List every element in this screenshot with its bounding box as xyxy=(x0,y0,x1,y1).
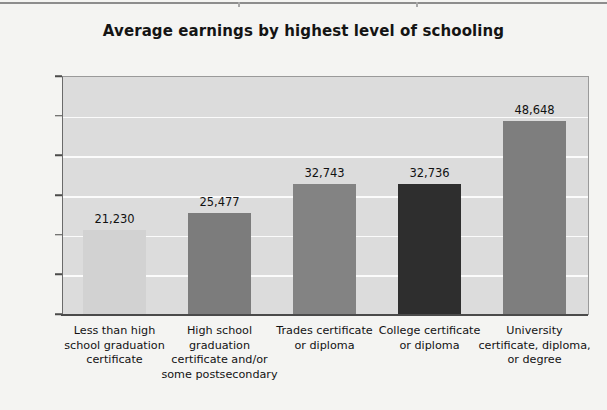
bar-value-label: 21,230 xyxy=(62,212,167,226)
x-axis-category-label: Less than highschool graduationcertifica… xyxy=(55,324,174,368)
x-axis-category-label: Trades certificateor diploma xyxy=(265,324,384,353)
y-axis-tick-mark xyxy=(55,155,62,157)
y-axis-tick-mark xyxy=(55,194,62,196)
x-axis-category-label-line: certificate and/or xyxy=(160,353,279,368)
x-axis-category-label: Universitycertificate, diploma,or degree xyxy=(475,324,594,368)
bar xyxy=(503,121,566,314)
x-axis-category-label-line: High school xyxy=(160,324,279,339)
x-axis-category-label-line: certificate xyxy=(55,353,174,368)
chart-figure: Average earnings by highest level of sch… xyxy=(0,6,607,410)
bar-value-label: 32,743 xyxy=(272,166,377,180)
x-axis-category-label-line: or diploma xyxy=(370,339,489,354)
bar-value-label: 48,648 xyxy=(482,103,587,117)
bar-value-label: 32,736 xyxy=(377,166,482,180)
chart-title: Average earnings by highest level of sch… xyxy=(0,22,607,40)
x-axis-baseline xyxy=(61,314,588,316)
bar xyxy=(188,213,251,314)
y-axis-tick-mark xyxy=(55,75,62,77)
y-axis-tick-mark xyxy=(55,234,62,236)
x-axis-category-label-line: graduation xyxy=(160,339,279,354)
x-axis-category-label-line: certificate, diploma, xyxy=(475,339,594,354)
y-axis-tick-mark xyxy=(55,274,62,276)
x-axis-category-label-line: some postsecondary xyxy=(160,368,279,383)
x-axis-category-label-line: University xyxy=(475,324,594,339)
bar-value-label: 25,477 xyxy=(167,195,272,209)
x-axis-category-label: High schoolgraduationcertificate and/ors… xyxy=(160,324,279,382)
page-top-rule xyxy=(0,2,607,4)
x-axis-category-label: College certificateor diploma xyxy=(370,324,489,353)
x-axis-category-label-line: or degree xyxy=(475,353,594,368)
x-axis-category-label-line: College certificate xyxy=(370,324,489,339)
x-axis-category-label-line: Less than high xyxy=(55,324,174,339)
x-axis-category-label-line: Trades certificate xyxy=(265,324,384,339)
y-axis-tick-mark xyxy=(55,313,62,315)
x-axis-category-label-line: school graduation xyxy=(55,339,174,354)
bar xyxy=(398,184,461,314)
x-axis-category-label-line: or diploma xyxy=(265,339,384,354)
y-axis-tick-mark xyxy=(55,115,62,117)
bar xyxy=(293,184,356,314)
bar xyxy=(83,230,146,314)
